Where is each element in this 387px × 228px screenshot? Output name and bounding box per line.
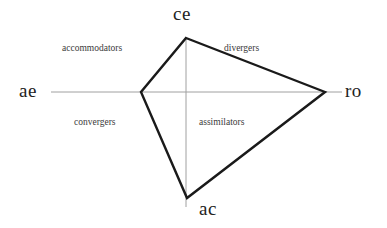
axis-label-ac: ac: [199, 199, 217, 218]
radar-chart-canvas: [0, 0, 387, 228]
axis-label-ae: ae: [19, 81, 37, 100]
quadrant-label-accommodators: accommodators: [62, 44, 122, 54]
axis-label-ce: ce: [173, 4, 191, 23]
quadrant-label-assimilators: assimilators: [199, 118, 244, 128]
quadrant-label-divergers: divergers: [224, 44, 259, 54]
quadrant-label-convergers: convergers: [74, 118, 116, 128]
axis-label-ro: ro: [345, 81, 362, 100]
kolb-learning-styles-diagram: ae ro ce ac accommodators divergers conv…: [0, 0, 387, 228]
